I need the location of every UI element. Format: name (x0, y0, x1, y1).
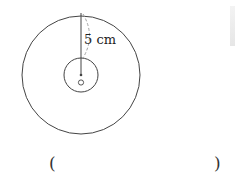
center-dot (80, 74, 83, 77)
answer-bracket-close: ) (214, 153, 221, 173)
page-edge-artifact (230, 6, 235, 46)
center-point-icon (78, 80, 83, 85)
answer-bracket-open: ( (49, 153, 56, 173)
circle-diagram: 5 cm (0, 0, 235, 180)
radius-label: 5 cm (84, 32, 116, 47)
